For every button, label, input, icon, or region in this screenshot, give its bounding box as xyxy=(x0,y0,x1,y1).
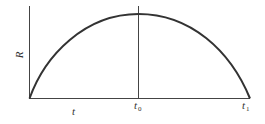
x-axis-label: t xyxy=(72,105,76,117)
curve-r-of-t xyxy=(30,14,251,99)
chart: R t t 0 t 1 xyxy=(0,0,265,124)
svg-text:1: 1 xyxy=(246,105,250,113)
t1-tick-label: t 1 xyxy=(242,99,250,113)
t0-tick-label: t 0 xyxy=(134,99,142,113)
y-axis-label: R xyxy=(13,51,25,59)
svg-text:0: 0 xyxy=(138,105,142,113)
